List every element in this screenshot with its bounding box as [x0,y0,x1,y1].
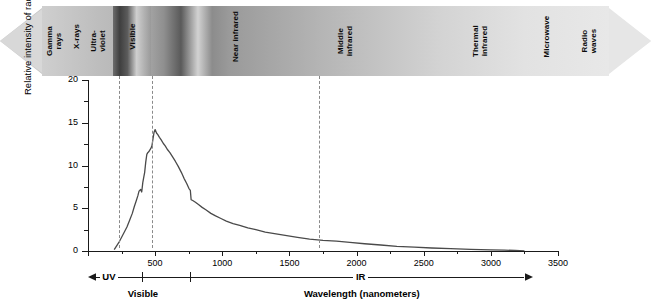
x-tick-label-1000: 1000 [202,258,242,268]
x-tick-minor-2750 [457,251,458,254]
y-tick-minor-7.5 [84,187,88,188]
y-tick-minor-12.5 [84,144,88,145]
x-tick-label-500: 500 [135,258,175,268]
y-tick-label-20: 20 [56,74,78,84]
solar-spectrum-figure: Gamma rays X-rays Ultra- violet Visible … [0,0,651,307]
x-tick-label-1500: 1500 [269,258,309,268]
visible-region-label: Visible [128,288,158,299]
x-tick-major-3000 [491,251,492,256]
x-tick-minor-3250 [524,251,525,254]
x-tick-label-3000: 3000 [471,258,511,268]
y-tick-label-10: 10 [56,160,78,170]
x-tick-label-2500: 2500 [404,258,444,268]
ir-region-label: IR [353,271,369,282]
y-tick-major-15 [82,123,88,124]
x-tick-major-1500 [289,251,290,256]
x-tick-minor-750 [189,251,190,254]
y-tick-major-20 [82,80,88,81]
y-axis-line [88,80,89,252]
x-axis-title: Wavelength (nanometers) [304,288,420,299]
y-tick-label-5: 5 [56,202,78,212]
y-tick-major-5 [82,208,88,209]
y-tick-minor-17.5 [84,101,88,102]
x-tick-minor-1250 [256,251,257,254]
x-tick-label-3500: 3500 [538,258,578,268]
x-tick-major-3500 [558,251,559,256]
x-tick-major-0 [88,251,89,256]
ir-right-arrow-icon [523,272,533,282]
x-tick-major-2000 [357,251,358,256]
x-tick-major-500 [155,251,156,256]
y-tick-label-15: 15 [56,117,78,127]
uv-region-label: UV [100,271,117,282]
uv-left-arrow-icon [88,272,98,282]
x-tick-minor-2250 [390,251,391,254]
x-tick-major-2500 [424,251,425,256]
x-tick-minor-1750 [323,251,324,254]
y-tick-label-0: 0 [56,245,78,255]
x-tick-minor-250 [122,251,123,254]
axis-and-region-layer: 05101520500100015002000250030003500UVVis… [0,0,651,307]
visible-region-rule [142,277,190,278]
y-tick-minor-2.5 [84,230,88,231]
y-tick-major-10 [82,166,88,167]
x-tick-major-1000 [222,251,223,256]
x-tick-label-2000: 2000 [337,258,377,268]
